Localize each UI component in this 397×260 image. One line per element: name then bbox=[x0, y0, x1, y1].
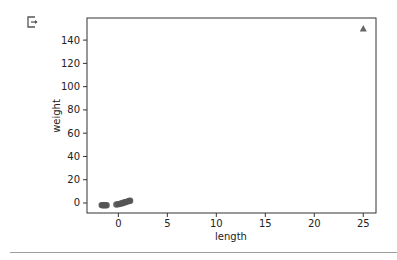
data-point bbox=[103, 202, 109, 208]
axes: 0510152025020406080100120140 bbox=[61, 18, 376, 229]
cell-divider bbox=[10, 252, 397, 253]
y-tick-label: 80 bbox=[67, 104, 80, 115]
y-axis-label: weight bbox=[51, 99, 62, 133]
y-tick-label: 0 bbox=[74, 197, 80, 208]
y-tick-label: 60 bbox=[67, 128, 80, 139]
y-tick-label: 120 bbox=[61, 58, 80, 69]
y-tick-label: 100 bbox=[61, 81, 80, 92]
y-tick-label: 40 bbox=[67, 151, 80, 162]
axes-frame bbox=[87, 18, 376, 213]
data-marks bbox=[98, 25, 366, 208]
x-tick-label: 15 bbox=[259, 218, 272, 229]
x-tick-label: 0 bbox=[115, 218, 121, 229]
data-point bbox=[127, 197, 133, 203]
x-tick-label: 25 bbox=[357, 218, 370, 229]
x-axis-label: length bbox=[215, 231, 247, 242]
x-tick-label: 20 bbox=[308, 218, 321, 229]
x-tick-label: 5 bbox=[164, 218, 170, 229]
x-tick-label: 10 bbox=[210, 218, 223, 229]
y-tick-label: 20 bbox=[67, 174, 80, 185]
data-point-triangle bbox=[360, 25, 367, 32]
scatter-chart: 0510152025020406080100120140 length weig… bbox=[0, 0, 397, 260]
y-tick-label: 140 bbox=[61, 35, 80, 46]
